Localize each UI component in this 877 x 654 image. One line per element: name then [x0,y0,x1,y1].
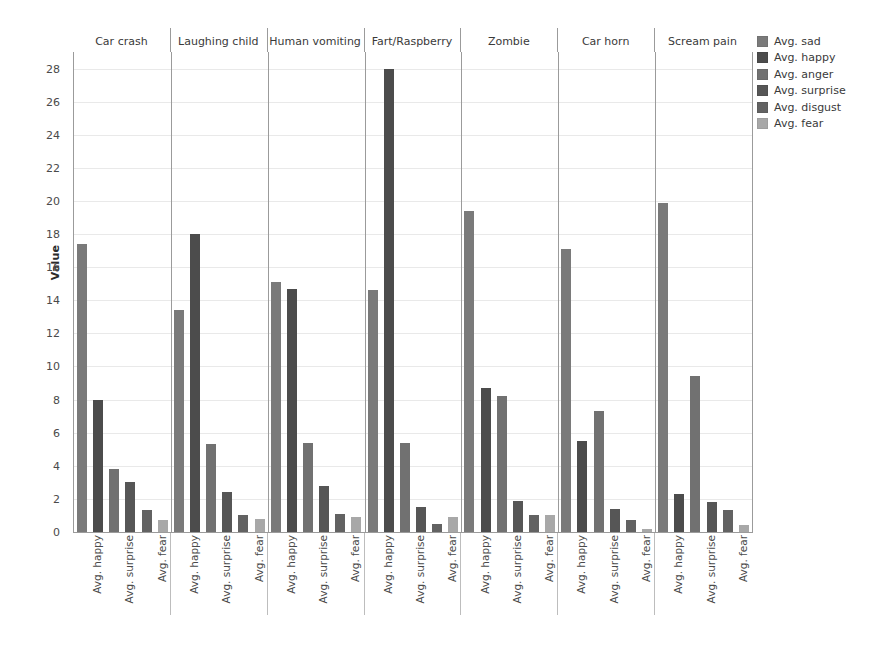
facet-x-labels-1: Avg. happyAvg. surpriseAvg. fear [73,533,170,651]
bar[interactable] [77,244,87,532]
legend-item-label: Avg. fear [774,117,823,130]
x-tick-label: Avg. fear [156,535,168,582]
bar[interactable] [400,443,410,532]
legend-item-label: Avg. sad [774,35,821,48]
bar[interactable] [368,290,378,532]
x-tick-label: Avg. surprise [123,535,135,603]
facet-header-7: Scream pain [654,30,751,52]
x-tick-slot [202,533,218,651]
legend-swatch-icon [757,85,768,96]
x-tick-label: Avg. surprise [317,535,329,603]
bar[interactable] [335,514,345,532]
bar[interactable] [577,441,587,532]
bar[interactable] [432,524,442,532]
bar[interactable] [416,507,426,532]
bar[interactable] [206,444,216,532]
bar[interactable] [464,211,474,532]
y-tick-label: 10 [46,360,60,373]
bar[interactable] [319,486,329,532]
legend: Avg. sadAvg. happyAvg. angerAvg. surpris… [757,33,872,132]
facet-header-label: Fart/Raspberry [372,35,453,48]
x-tick-slot: Avg. surprise [315,533,331,651]
facet-panel-1 [74,52,171,532]
bar[interactable] [707,502,717,532]
legend-item-1[interactable]: Avg. sad [757,33,872,50]
x-tick-slot [331,533,347,651]
bar[interactable] [674,494,684,532]
bar[interactable] [497,396,507,532]
bar[interactable] [303,443,313,532]
x-tick-slot [493,533,509,651]
y-tick-label: 14 [46,294,60,307]
y-tick-label: 8 [53,393,60,406]
facet-header-label: Car horn [582,35,629,48]
legend-item-6[interactable]: Avg. fear [757,116,872,133]
x-tick-slot [590,533,606,651]
legend-item-label: Avg. disgust [774,101,841,114]
bar[interactable] [125,482,135,532]
x-tick-slot: Avg. surprise [702,533,718,651]
x-tick-slot [267,533,283,651]
bar[interactable] [255,519,265,532]
bar[interactable] [561,249,571,532]
y-tick-label: 6 [53,426,60,439]
x-tick-slot: Avg. fear [444,533,460,651]
bar[interactable] [238,515,248,532]
bar[interactable] [448,517,458,532]
bar[interactable] [723,510,733,532]
x-tick-label: Avg. happy [575,535,587,594]
plot-area [73,52,753,533]
bar[interactable] [626,520,636,532]
bar[interactable] [481,388,491,532]
legend-swatch-icon [757,118,768,129]
bar[interactable] [529,515,539,532]
x-tick-label: Avg. fear [640,535,652,582]
legend-item-4[interactable]: Avg. surprise [757,83,872,100]
bar[interactable] [594,411,604,532]
x-tick-slot: Avg. fear [251,533,267,651]
bar[interactable] [690,376,700,532]
bar[interactable] [610,509,620,532]
x-tick-slot: Avg. happy [186,533,202,651]
bar[interactable] [158,520,168,532]
bar[interactable] [174,310,184,532]
bar[interactable] [642,529,652,532]
facet-header-5: Zombie [460,30,557,52]
bar[interactable] [513,501,523,532]
x-tick-slot: Avg. fear [154,533,170,651]
bar[interactable] [190,234,200,532]
x-axis-tick-labels: Avg. happyAvg. surpriseAvg. fearAvg. hap… [73,533,751,651]
x-tick-label: Avg. surprise [414,535,426,603]
bar[interactable] [142,510,152,532]
facet-header-2: Laughing child [170,30,267,52]
bar[interactable] [287,289,297,532]
legend-item-3[interactable]: Avg. anger [757,66,872,83]
bar[interactable] [739,525,749,532]
facet-header-strip: Car crashLaughing childHuman vomitingFar… [73,30,751,53]
bar[interactable] [222,492,232,532]
legend-item-5[interactable]: Avg. disgust [757,99,872,116]
bar-chart: Value 0246810121416182022242628 Car cras… [0,0,877,654]
facet-panel-7 [655,52,752,532]
bar[interactable] [658,203,668,532]
bar[interactable] [351,517,361,532]
y-tick-label: 20 [46,194,60,207]
bar[interactable] [545,515,555,532]
x-tick-slot [396,533,412,651]
bar[interactable] [271,282,281,532]
facet-header-3: Human vomiting [267,30,364,52]
bar[interactable] [384,69,394,532]
x-tick-slot: Avg. surprise [606,533,622,651]
y-tick-label: 2 [53,492,60,505]
bar[interactable] [109,469,119,532]
bar[interactable] [93,400,103,532]
x-tick-slot [73,533,89,651]
facet-x-labels-3: Avg. happyAvg. surpriseAvg. fear [267,533,364,651]
facet-panel-5 [461,52,558,532]
x-tick-label: Avg. fear [737,535,749,582]
x-tick-slot: Avg. fear [347,533,363,651]
facet-header-6: Car horn [557,30,654,52]
x-tick-slot: Avg. happy [89,533,105,651]
legend-item-2[interactable]: Avg. happy [757,50,872,67]
x-tick-slot: Avg. surprise [218,533,234,651]
